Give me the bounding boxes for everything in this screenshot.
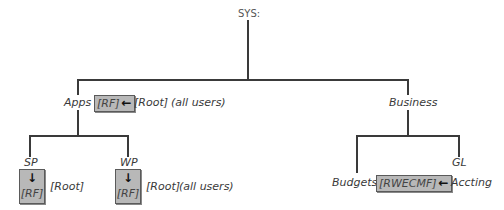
budgets-trustee: Accting [451, 176, 492, 189]
apps-trustee: [Root] [134, 96, 168, 109]
connector-business-down [407, 110, 409, 137]
connector-sys-down [247, 20, 249, 81]
wp-rights-label: [RF] [116, 187, 140, 200]
connector-apps-horizontal [29, 135, 129, 137]
connector-apps-down [77, 110, 79, 137]
node-gl: GL [452, 156, 467, 169]
connector-apps-up [77, 79, 79, 95]
apps-rights-label: [RF] [97, 97, 120, 110]
budgets-rights-label: [RWECMF] [379, 177, 437, 190]
left-arrow-icon: ← [439, 177, 449, 190]
connector-sp [29, 135, 31, 157]
node-sp: SP [24, 156, 38, 169]
connector-gl [458, 135, 460, 157]
budgets-rights-box: [RWECMF] ← [376, 175, 452, 192]
node-apps: Apps [64, 96, 91, 109]
sp-rights-label: [RF] [20, 187, 44, 200]
down-arrow-icon: ↓ [116, 171, 140, 185]
apps-rights-box: [RF] ← [94, 95, 135, 112]
connector-business-up [407, 79, 409, 95]
wp-rights-box: ↓ [RF] [115, 169, 141, 204]
sp-trustee: [Root] [50, 180, 84, 193]
connector-wp [127, 135, 129, 157]
left-arrow-icon: ← [122, 97, 132, 110]
node-business: Business [389, 96, 438, 109]
sp-rights-box: ↓ [RF] [19, 169, 45, 204]
node-budgets: Budgets [332, 176, 377, 189]
connector-top-horizontal [77, 79, 409, 81]
node-wp: WP [120, 156, 138, 169]
apps-note: (all users) [171, 96, 226, 109]
wp-note: (all users) [179, 180, 234, 193]
wp-trustee: [Root] [146, 180, 180, 193]
down-arrow-icon: ↓ [20, 171, 44, 185]
connector-budgets [356, 135, 358, 173]
node-sys: SYS: [238, 7, 260, 20]
connector-business-horizontal [356, 135, 460, 137]
